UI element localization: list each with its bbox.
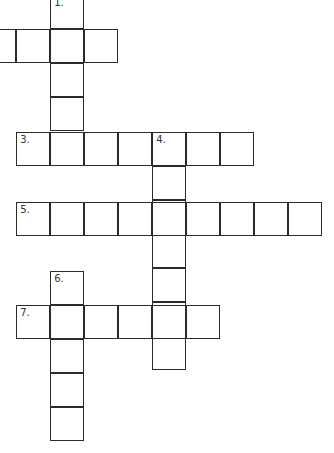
crossword-cell[interactable] xyxy=(16,29,50,63)
crossword-cell[interactable] xyxy=(288,202,322,236)
crossword-cell[interactable]: 5. xyxy=(16,202,50,236)
crossword-cell[interactable] xyxy=(254,202,288,236)
clue-number: 1. xyxy=(54,0,64,8)
crossword-cell[interactable] xyxy=(50,97,84,131)
clue-number: 4. xyxy=(156,134,166,145)
crossword-cell[interactable]: 4. xyxy=(152,132,186,166)
crossword-cell[interactable] xyxy=(50,63,84,97)
crossword-cell[interactable]: 3. xyxy=(16,132,50,166)
crossword-cell[interactable] xyxy=(84,29,118,63)
crossword-cell[interactable]: 1. xyxy=(50,0,84,29)
crossword-cell[interactable] xyxy=(220,132,254,166)
crossword-cell[interactable] xyxy=(118,202,152,236)
crossword-cell[interactable] xyxy=(50,132,84,166)
crossword-cell[interactable] xyxy=(50,29,84,63)
crossword-cell[interactable] xyxy=(50,339,84,373)
crossword-cell[interactable] xyxy=(186,132,220,166)
crossword-cell[interactable] xyxy=(84,132,118,166)
crossword-cell[interactable] xyxy=(50,305,84,339)
crossword-cell[interactable] xyxy=(118,132,152,166)
crossword-cell[interactable] xyxy=(220,202,254,236)
clue-number: 3. xyxy=(20,134,30,145)
crossword-cell[interactable] xyxy=(118,305,152,339)
clue-number: 7. xyxy=(20,307,30,318)
crossword-cell[interactable] xyxy=(50,407,84,441)
clue-number: 5. xyxy=(20,204,30,215)
crossword-cell[interactable]: 6. xyxy=(50,271,84,305)
crossword-cell[interactable] xyxy=(152,166,186,200)
crossword-cell[interactable] xyxy=(152,202,186,236)
crossword-cell[interactable] xyxy=(152,234,186,268)
crossword-cell[interactable] xyxy=(84,202,118,236)
crossword-cell[interactable] xyxy=(186,305,220,339)
crossword-cell[interactable] xyxy=(50,373,84,407)
crossword-cell[interactable] xyxy=(186,202,220,236)
crossword-cell[interactable]: 7. xyxy=(16,305,50,339)
crossword-cell[interactable] xyxy=(152,336,186,370)
clue-number: 6. xyxy=(54,273,64,284)
crossword-cell[interactable] xyxy=(152,305,186,339)
crossword-cell[interactable] xyxy=(0,29,16,63)
crossword-cell[interactable] xyxy=(50,202,84,236)
crossword-cell[interactable] xyxy=(84,305,118,339)
crossword-cell[interactable] xyxy=(152,268,186,302)
